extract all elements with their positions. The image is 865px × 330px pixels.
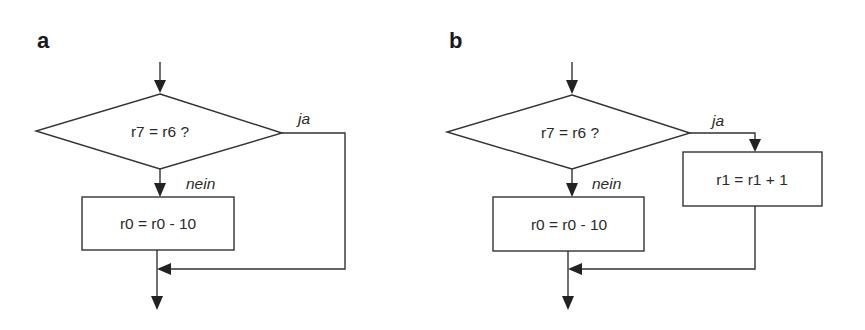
arrowhead-left-icon [157,263,171,275]
arrowhead-down-icon [154,80,166,93]
decision-node-b: r7 = r6 ? [447,95,690,169]
arrowhead-down-icon [562,296,574,310]
yes-branch-b: ja [690,112,761,152]
no-branch-a: nein [154,169,215,197]
process-no-node-b: r0 = r0 - 10 [493,197,644,251]
no-label-b: nein [592,175,621,192]
entry-arrow-b [566,62,578,94]
no-branch-b: nein [566,169,621,197]
process-node-a: r0 = r0 - 10 [82,197,234,250]
arrowhead-down-icon [151,296,163,310]
arrowhead-left-icon [568,263,582,275]
arrowhead-down-icon [566,80,578,94]
panel-a: a r7 = r6 ? ja nein r0 = r0 - 10 [36,28,345,310]
panel-label-b: b [449,28,462,53]
process-no-text-b: r0 = r0 - 10 [531,216,608,233]
process-yes-node-b: r1 = r1 + 1 [683,152,822,206]
arrowhead-down-icon [154,183,166,197]
exit-arrow-b [562,251,574,310]
yes-label-b: ja [710,112,724,129]
decision-text-b: r7 = r6 ? [541,124,600,141]
panel-b: b r7 = r6 ? ja r1 = r1 + 1 [447,28,822,310]
arrowhead-down-icon [566,183,578,197]
panel-label-a: a [37,28,50,53]
decision-node-a: r7 = r6 ? [36,94,282,169]
no-label-a: nein [186,175,215,192]
entry-arrow-a [154,62,166,93]
exit-arrow-a [151,250,163,310]
decision-text-a: r7 = r6 ? [131,123,190,140]
process-yes-text-b: r1 = r1 + 1 [716,171,788,188]
flowchart-figure: a r7 = r6 ? ja nein r0 = r0 - 10 [0,0,865,330]
arrowhead-down-icon [749,139,761,152]
process-text-a: r0 = r0 - 10 [120,215,197,232]
yes-label-a: ja [296,110,310,127]
